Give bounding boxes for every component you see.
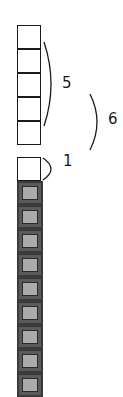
label-1: 1 [63, 154, 73, 169]
label-5: 5 [62, 76, 72, 91]
brace-1-icon [43, 158, 51, 180]
label-6: 6 [108, 112, 118, 127]
brace-6-icon [90, 94, 97, 150]
brace-5-icon [44, 42, 51, 126]
